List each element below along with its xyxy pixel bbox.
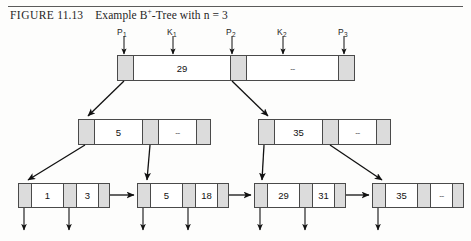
internal-node-left-pointer-cell-4 bbox=[197, 120, 210, 144]
leaf-node-3-pointer-cell-4 bbox=[335, 184, 345, 207]
caption-figure-number: 11.13 bbox=[57, 9, 83, 21]
root-label-arrows bbox=[124, 36, 344, 54]
leaf-node-1-pointer-cell-2 bbox=[64, 184, 77, 207]
pointer-label-k1: K1 bbox=[167, 27, 176, 37]
leaf-node-2: 518 bbox=[137, 183, 229, 208]
internal-node-left-pointer-cell-2 bbox=[143, 120, 159, 144]
leaf-node-1-pointer-cell-4 bbox=[99, 184, 109, 207]
pointer-label-p2-sub: 2 bbox=[232, 31, 236, 38]
leaf-node-4-pointer-cell-0 bbox=[373, 184, 386, 207]
internal-left-to-leaf-arrows bbox=[28, 145, 150, 180]
leaf-record-pointer-arrows bbox=[24, 208, 378, 230]
pointer-label-p2-text: P bbox=[226, 27, 232, 37]
pointer-label-p2: P2 bbox=[226, 27, 235, 37]
pointer-label-k2-text: K bbox=[277, 27, 283, 37]
pointer-label-p3: P3 bbox=[338, 27, 347, 37]
leaf-node-2-pointer-cell-0 bbox=[138, 184, 151, 207]
pointer-label-k2: K2 bbox=[277, 27, 286, 37]
figure-canvas: FIGURE11.13Example B+-Tree with n = 3 P1… bbox=[0, 0, 471, 241]
root-node-pointer-cell-4 bbox=[339, 56, 354, 80]
root-node: 29-- bbox=[117, 55, 355, 81]
pointer-label-p1: P1 bbox=[117, 27, 126, 37]
root-node-pointer-cell-2 bbox=[231, 56, 247, 80]
internal-node-left-key-cell-1: 5 bbox=[95, 120, 143, 144]
leaf-node-1-pointer-cell-0 bbox=[19, 184, 32, 207]
internal-node-right-key-cell-1: 35 bbox=[275, 120, 323, 144]
root-node-key-cell-3: -- bbox=[247, 56, 339, 80]
pointer-label-p3-text: P bbox=[338, 27, 344, 37]
pointer-label-p1-text: P bbox=[117, 27, 123, 37]
leaf-node-3-pointer-cell-2 bbox=[300, 184, 313, 207]
leaf-node-3-pointer-cell-0 bbox=[255, 184, 268, 207]
leaf-node-4-key-cell-1: 35 bbox=[386, 184, 418, 207]
internal-node-right-pointer-cell-2 bbox=[323, 120, 339, 144]
leaf-node-4: 35-- bbox=[372, 183, 464, 208]
caption-title-post: -Tree with n = 3 bbox=[152, 9, 228, 21]
root-to-internal-arrows bbox=[88, 81, 268, 116]
internal-node-right-pointer-cell-0 bbox=[259, 120, 275, 144]
internal-node-right: 35-- bbox=[258, 119, 391, 145]
internal-node-left-pointer-cell-0 bbox=[79, 120, 95, 144]
internal-right-to-leaf-arrows bbox=[262, 145, 382, 180]
root-node-key-cell-1: 29 bbox=[134, 56, 231, 80]
leaf-node-2-pointer-cell-2 bbox=[183, 184, 196, 207]
leaf-node-3-key-cell-3: 31 bbox=[313, 184, 335, 207]
leaf-node-2-key-cell-1: 5 bbox=[151, 184, 183, 207]
leaf-node-2-pointer-cell-4 bbox=[218, 184, 228, 207]
caption-title-pre: Example B bbox=[95, 9, 147, 21]
caption-figure-word: FIGURE bbox=[10, 9, 54, 21]
pointer-label-k1-sub: 1 bbox=[173, 31, 177, 38]
caption-divider bbox=[8, 6, 463, 7]
leaf-node-3-key-cell-1: 29 bbox=[268, 184, 300, 207]
internal-node-right-pointer-cell-4 bbox=[377, 120, 390, 144]
leaf-node-4-pointer-cell-4 bbox=[453, 184, 463, 207]
pointer-label-p3-sub: 3 bbox=[344, 31, 348, 38]
internal-node-left-key-cell-3: -- bbox=[159, 120, 197, 144]
leaf-node-4-key-cell-3: -- bbox=[431, 184, 453, 207]
leaf-node-1-key-cell-3: 3 bbox=[77, 184, 99, 207]
leaf-node-4-pointer-cell-2 bbox=[418, 184, 431, 207]
pointer-label-k1-text: K bbox=[167, 27, 173, 37]
leaf-node-1: 13 bbox=[18, 183, 110, 208]
leaf-node-3: 2931 bbox=[254, 183, 346, 208]
pointer-label-p1-sub: 1 bbox=[123, 31, 127, 38]
figure-caption: FIGURE11.13Example B+-Tree with n = 3 bbox=[10, 9, 430, 25]
internal-node-left: 5-- bbox=[78, 119, 211, 145]
leaf-node-2-key-cell-3: 18 bbox=[196, 184, 218, 207]
internal-node-right-key-cell-3: -- bbox=[339, 120, 377, 144]
root-node-pointer-cell-0 bbox=[118, 56, 134, 80]
leaf-node-1-key-cell-1: 1 bbox=[32, 184, 64, 207]
pointer-label-k2-sub: 2 bbox=[283, 31, 287, 38]
